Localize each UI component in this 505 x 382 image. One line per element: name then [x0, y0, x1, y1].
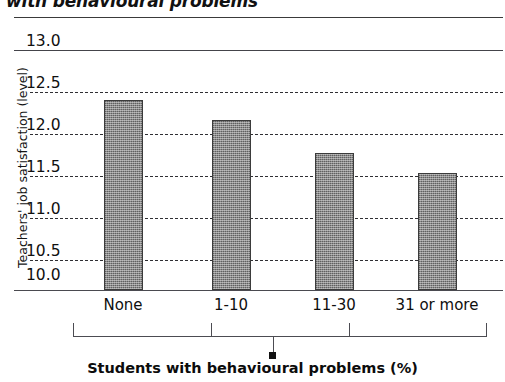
- plot-area: [0, 50, 505, 290]
- top-frame-rule: [14, 17, 503, 18]
- bar-none: [104, 100, 143, 290]
- category-bracket: [73, 336, 487, 337]
- bar-chart-figure: with behavioural problems Teachers' job …: [0, 0, 505, 382]
- bar-1-10: [212, 120, 251, 290]
- x-tick-label-31-or-more: 31 or more: [396, 296, 479, 314]
- bracket-tick-31-or-more: [486, 323, 487, 336]
- bracket-dot: [269, 352, 276, 359]
- x-axis-title: Students with behavioural problems (%): [0, 360, 505, 376]
- bracket-tick-11-30: [349, 323, 350, 336]
- bracket-tick-none: [73, 323, 74, 336]
- bracket-tick-1-10: [211, 323, 212, 336]
- x-tick-label-none: None: [103, 296, 142, 314]
- bar-11-30: [315, 153, 354, 290]
- x-axis-baseline: [14, 290, 503, 291]
- x-tick-label-11-30: 11-30: [312, 296, 356, 314]
- x-tick-label-1-10: 1-10: [214, 296, 248, 314]
- y-tick-label-13-0: 13.0: [26, 32, 61, 50]
- chart-title: with behavioural problems: [6, 0, 406, 13]
- bar-31-or-more: [418, 173, 457, 290]
